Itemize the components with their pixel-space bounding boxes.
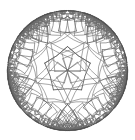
geodesic-arc [104, 93, 109, 103]
figure-root: Hyperbolic tessellation in the Poincare … [0, 0, 135, 140]
geodesic-arc [51, 18, 57, 19]
geodesic-arc [70, 98, 92, 101]
geodesic-arc [93, 27, 94, 41]
geodesic-arc [112, 107, 113, 108]
geodesic-arc [53, 60, 79, 77]
geodesic-arc [100, 117, 101, 119]
geodesic-arc [63, 110, 71, 121]
geodesic-arc [85, 22, 86, 35]
geodesic-arc [27, 93, 32, 103]
geodesic-arc [42, 27, 43, 41]
geodesic-arc [31, 95, 41, 106]
geodesic-arc [94, 95, 104, 106]
geodesic-arc [64, 110, 72, 121]
geodesic-arc [78, 18, 84, 19]
geodesic-arc [103, 55, 116, 57]
poincare-disk-tiling: Hyperbolic tessellation in the Poincare … [0, 0, 135, 140]
geodesic-arc-layer [8, 11, 128, 131]
geodesic-arc [92, 124, 93, 125]
geodesic-arc [47, 47, 72, 59]
geodesic-arc [43, 98, 65, 101]
geodesic-arc [63, 47, 88, 59]
geodesic-arc [103, 66, 111, 82]
geodesic-arc [67, 19, 69, 32]
geodesic-arc [58, 31, 76, 32]
geodesic-arc [24, 66, 32, 82]
geodesic-arc [39, 116, 41, 120]
geodesic-arc [40, 119, 41, 122]
geodesic-arc [19, 55, 32, 57]
geodesic-arc [94, 119, 95, 122]
geodesic-arc [57, 60, 83, 77]
geodesic-arc [49, 22, 50, 35]
